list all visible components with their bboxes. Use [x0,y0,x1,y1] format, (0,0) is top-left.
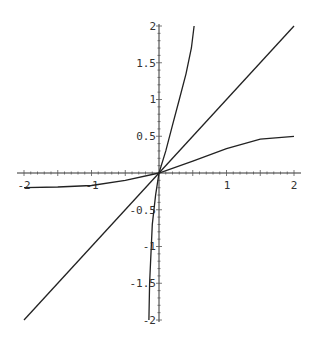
x-tick-label: 2 [291,179,298,192]
y-tick-label: 2 [149,20,156,33]
y-tick-label: 1 [149,93,156,106]
y-tick-label: 1.5 [136,57,156,70]
x-tick-label: -2 [17,179,30,192]
y-tick-label: -1 [143,240,156,253]
y-tick-label: -0.5 [130,204,157,217]
y-tick-label: 0.5 [136,130,156,143]
y-tick-label: -1.5 [130,277,157,290]
plot-canvas: -2 -1 1 2 2 1.5 1 0.5 -0.5 -1 -1.5 -2 [0,0,322,340]
x-tick-label: 1 [224,179,231,192]
